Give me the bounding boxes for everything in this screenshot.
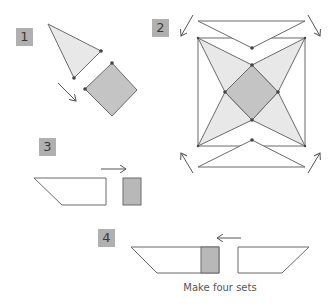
step-3-label: 3 <box>39 138 56 156</box>
step-4-label: 4 <box>98 229 115 247</box>
step-1-figure <box>48 24 137 116</box>
step-1-label: 1 <box>16 28 33 46</box>
arrow-icon <box>308 153 320 173</box>
step-3-figure <box>34 169 141 205</box>
arrow-icon <box>58 83 76 101</box>
triangle-piece <box>48 24 101 78</box>
trapezoid-piece <box>34 178 106 205</box>
step-4-figure <box>131 238 309 273</box>
arrow-icon <box>181 153 193 173</box>
square-piece <box>85 63 137 116</box>
arrow-icon <box>308 15 320 36</box>
rectangle-piece <box>201 247 219 273</box>
rectangle-piece <box>123 178 141 205</box>
step-2-figure <box>181 15 320 173</box>
caption: Make four sets <box>160 282 280 293</box>
step-2-label: 2 <box>152 19 169 37</box>
right-trapezoid <box>238 247 309 273</box>
arrow-icon <box>181 15 193 36</box>
